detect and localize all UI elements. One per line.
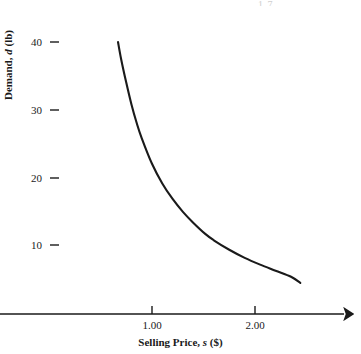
x-axis-title-prefix: Selling Price, bbox=[138, 336, 202, 348]
y-axis-title-variable: d bbox=[2, 49, 14, 55]
x-axis-title-suffix: ($) bbox=[207, 336, 223, 348]
plot-area bbox=[0, 0, 361, 354]
demand-curve-line bbox=[118, 42, 300, 283]
x-axis-title: Selling Price, s ($) bbox=[0, 336, 361, 348]
x-tick-marks bbox=[152, 306, 255, 314]
y-axis-title: Demand, d (lb) bbox=[2, 0, 14, 100]
demand-curve-figure: 1.7 40 30 20 10 1.00 2.00 D bbox=[0, 0, 361, 354]
x-tick-label-2-00: 2.00 bbox=[245, 319, 264, 331]
y-tick-label-30: 30 bbox=[18, 104, 42, 116]
y-tick-marks bbox=[50, 42, 59, 245]
y-axis-title-prefix: Demand, bbox=[2, 55, 14, 100]
y-tick-label-10: 10 bbox=[18, 239, 42, 251]
y-tick-label-40: 40 bbox=[18, 36, 42, 48]
y-axis-title-suffix: (lb) bbox=[2, 30, 14, 49]
y-tick-label-20: 20 bbox=[18, 172, 42, 184]
x-tick-label-1-00: 1.00 bbox=[142, 319, 161, 331]
